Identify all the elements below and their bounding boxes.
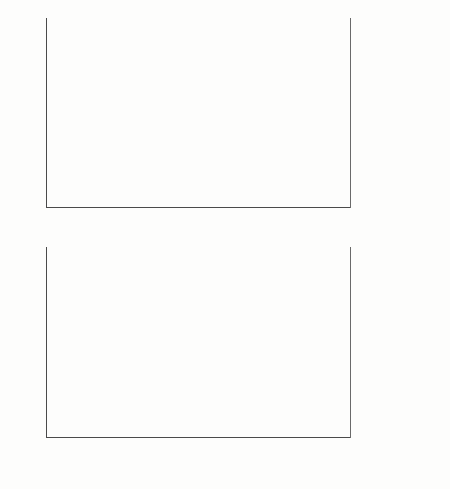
figure-page <box>0 0 450 489</box>
series-lines-bottom <box>0 0 450 489</box>
chart-panel-bottom <box>0 0 450 489</box>
